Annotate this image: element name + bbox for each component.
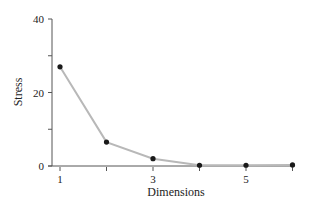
y-tick-label: 40 bbox=[33, 13, 45, 25]
data-point-marker bbox=[57, 64, 62, 69]
y-tick-label: 0 bbox=[39, 160, 45, 172]
series-line bbox=[60, 67, 293, 165]
x-tick-label: 3 bbox=[150, 173, 156, 185]
x-tick-label: 5 bbox=[243, 173, 249, 185]
data-point-marker bbox=[104, 140, 109, 145]
data-point-marker bbox=[150, 156, 155, 161]
data-point-marker bbox=[197, 163, 202, 168]
x-axis-label: Dimensions bbox=[147, 185, 205, 199]
y-tick-label: 20 bbox=[33, 87, 45, 99]
stress-dimensions-chart: 02040135 Dimensions Stress bbox=[0, 0, 312, 213]
data-point-marker bbox=[290, 162, 295, 167]
data-point-marker bbox=[243, 163, 248, 168]
y-axis-label: Stress bbox=[11, 77, 25, 106]
data-series bbox=[57, 64, 295, 168]
x-tick-label: 1 bbox=[57, 173, 63, 185]
